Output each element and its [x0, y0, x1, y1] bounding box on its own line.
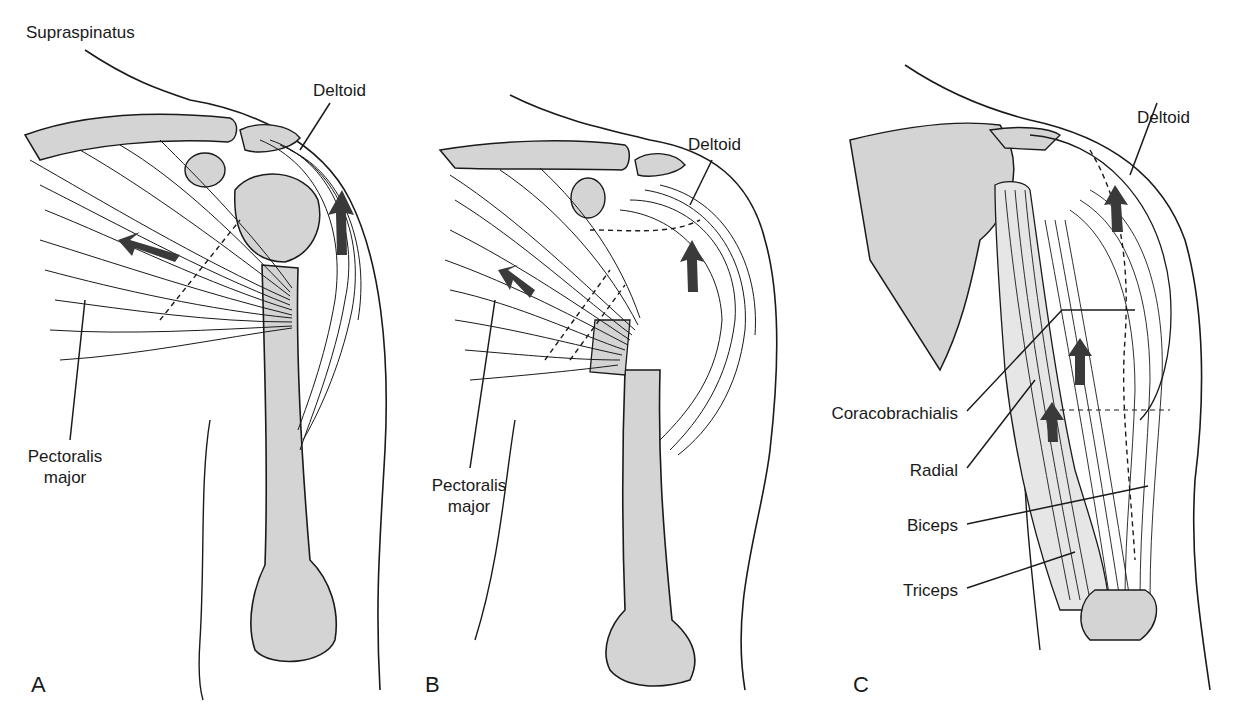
- label-pectoralis-major: Pectoralis major: [424, 475, 514, 517]
- panel-a: Supraspinatus Deltoid Pectoralis major A: [0, 0, 410, 710]
- label-pectoralis-major: Pectoralis major: [20, 446, 110, 488]
- label-deltoid: Deltoid: [688, 134, 741, 155]
- panel-letter-b: B: [425, 672, 440, 698]
- panel-b: Deltoid Pectoralis major B: [410, 0, 820, 710]
- arrow-icon: [118, 232, 180, 262]
- shoulder-illustration-a: [0, 0, 410, 710]
- panel-c: Deltoid Coracobrachialis Radial Biceps T…: [790, 0, 1233, 710]
- label-deltoid: Deltoid: [1137, 107, 1190, 128]
- panel-letter-a: A: [31, 672, 46, 698]
- label-radial: Radial: [790, 460, 958, 481]
- label-triceps: Triceps: [790, 580, 958, 601]
- label-deltoid: Deltoid: [313, 80, 366, 101]
- label-pectoralis-line1: Pectoralis: [424, 475, 514, 496]
- arrow-icon: [680, 240, 704, 292]
- arrow-icon: [1068, 338, 1092, 385]
- arrow-icon: [1104, 185, 1128, 232]
- arrow-icon: [498, 265, 535, 298]
- label-biceps: Biceps: [790, 515, 958, 536]
- label-coracobrachialis: Coracobrachialis: [790, 403, 958, 424]
- label-pectoralis-line2: major: [20, 467, 110, 488]
- panel-letter-c: C: [853, 672, 869, 698]
- label-pectoralis-line1: Pectoralis: [20, 446, 110, 467]
- label-pectoralis-line2: major: [424, 496, 514, 517]
- shoulder-illustration-b: [410, 0, 820, 710]
- label-supraspinatus: Supraspinatus: [26, 22, 135, 43]
